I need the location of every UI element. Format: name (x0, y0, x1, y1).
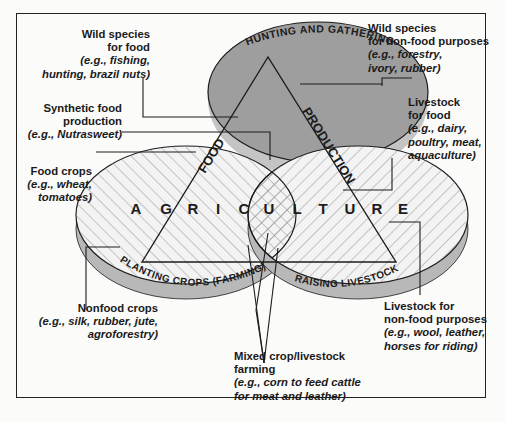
label-livestock-nonfood: Livestock for non-food purposes (e.g., w… (384, 300, 494, 353)
svg-text:R: R (188, 200, 199, 217)
label-wild-species-food: Wild species for food (e.g., fishing, hu… (40, 28, 150, 81)
label-nonfood-crops: Nonfood crops (e.g., silk, rubber, jute,… (22, 302, 158, 342)
svg-text:G: G (160, 200, 172, 217)
svg-text:U: U (264, 200, 275, 217)
svg-text:A: A (131, 200, 142, 217)
svg-text:L: L (292, 200, 301, 217)
svg-text:C: C (239, 200, 250, 217)
svg-text:E: E (398, 200, 408, 217)
label-food-crops: Food crops (e.g., wheat, tomatoes) (18, 165, 92, 205)
label-synthetic-food: Synthetic food production (e.g., Nutrasw… (22, 102, 122, 142)
label-mixed-farming: Mixed crop/livestock farming (e.g., corn… (234, 350, 394, 403)
label-livestock-food: Livestock for food (e.g., dairy, poultry… (408, 96, 504, 162)
svg-text:R: R (372, 200, 383, 217)
svg-text:U: U (345, 200, 356, 217)
svg-text:I: I (216, 200, 220, 217)
svg-text:T: T (318, 200, 327, 217)
label-wild-species-nonfood: Wild species for non-food purposes (e.g.… (368, 22, 498, 75)
